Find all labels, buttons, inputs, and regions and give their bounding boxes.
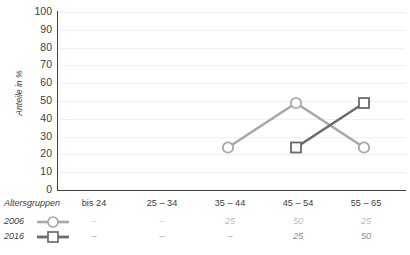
series-2016-point-45-54 — [291, 143, 301, 153]
value-2006-35-44: 25 — [196, 214, 264, 228]
table-row-2006: 2006 – – 25 50 25 — [0, 214, 410, 230]
column-header-45-54: 45 – 54 — [264, 196, 332, 210]
value-2016-55-65: 50 — [332, 229, 400, 243]
table-row-headers: Altersgruppen bis 24 25 – 34 35 – 44 45 … — [0, 196, 410, 212]
data-table: Altersgruppen bis 24 25 – 34 35 – 44 45 … — [0, 196, 410, 255]
series-2006-point-35-44 — [223, 142, 233, 152]
value-2016-25-34: – — [128, 229, 196, 243]
series-layer — [0, 0, 410, 200]
series-2006-point-55-65 — [359, 142, 369, 152]
table-row-2016: 2016 – – – 25 50 — [0, 229, 410, 245]
value-2006-25-34: – — [128, 214, 196, 228]
value-2006-55-65: 25 — [332, 214, 400, 228]
value-2006-bis-24: – — [60, 214, 128, 228]
value-2006-45-54: 50 — [264, 214, 332, 228]
chart-figure: 100 90 80 70 60 50 40 30 20 10 0 Anteile… — [0, 0, 410, 255]
column-header-bis-24: bis 24 — [60, 196, 128, 210]
column-header-25-34: 25 – 34 — [128, 196, 196, 210]
value-2016-bis-24: – — [60, 229, 128, 243]
series-2006-point-45-54 — [291, 98, 301, 108]
square-icon — [48, 232, 58, 242]
value-2016-35-44: – — [196, 229, 264, 243]
value-2016-45-54: 25 — [264, 229, 332, 243]
circle-icon — [48, 217, 58, 227]
series-2016-point-55-65 — [359, 98, 369, 108]
column-header-55-65: 55 – 65 — [332, 196, 400, 210]
column-header-35-44: 35 – 44 — [196, 196, 264, 210]
series-2006-line — [228, 103, 364, 148]
